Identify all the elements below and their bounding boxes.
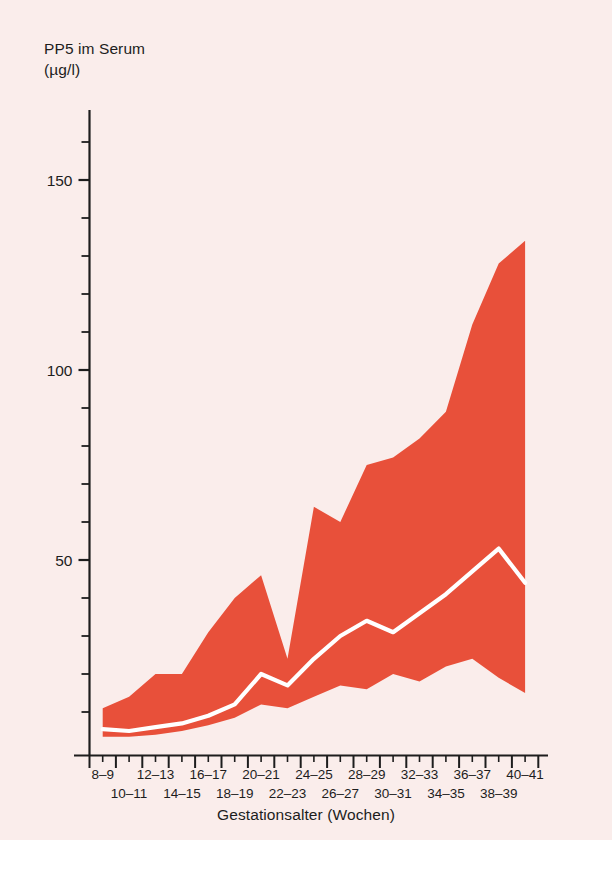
x-axis-tick-label: 30–31 — [374, 786, 412, 801]
x-axis-tick-label: 26–27 — [322, 786, 360, 801]
y-axis-ticks — [79, 142, 90, 712]
x-axis-tick-label: 10–11 — [111, 786, 148, 801]
x-axis-tick-label: 14–15 — [163, 786, 201, 801]
x-axis-tick-label: 8–9 — [91, 767, 114, 782]
x-axis-tick-label: 18–19 — [216, 786, 254, 801]
y-axis-tick-label: 150 — [47, 172, 73, 189]
y-axis-tick-label: 50 — [55, 552, 73, 569]
x-axis-tick-label: 34–35 — [427, 786, 465, 801]
x-axis-tick-labels: 8–910–1112–1314–1516–1718–1920–2122–2324… — [91, 767, 543, 801]
x-axis-tick-label: 32–33 — [401, 767, 439, 782]
figure-panel: PP5 im Serum(µg/l) Gestationsalter (Woch… — [0, 0, 612, 840]
x-axis-tick-label: 36–37 — [454, 767, 492, 782]
percentile-band — [103, 241, 525, 737]
x-axis-tick-label: 24–25 — [295, 767, 333, 782]
y-axis-tick-label: 100 — [47, 362, 73, 379]
chart-plot: 8–910–1112–1314–1516–1718–1920–2122–2324… — [0, 0, 612, 840]
x-axis-tick-label: 28–29 — [348, 767, 386, 782]
data-band-group — [103, 241, 525, 737]
x-axis-tick-label: 22–23 — [269, 786, 307, 801]
x-axis-tick-label: 40–41 — [506, 767, 544, 782]
x-axis-tick-label: 20–21 — [242, 767, 280, 782]
figure-caption-strip — [0, 840, 612, 876]
x-axis-tick-label: 12–13 — [137, 767, 175, 782]
x-axis-tick-label: 38–39 — [480, 786, 518, 801]
y-axis-tick-labels: 15010050 — [47, 172, 73, 569]
x-axis-tick-label: 16–17 — [190, 767, 228, 782]
